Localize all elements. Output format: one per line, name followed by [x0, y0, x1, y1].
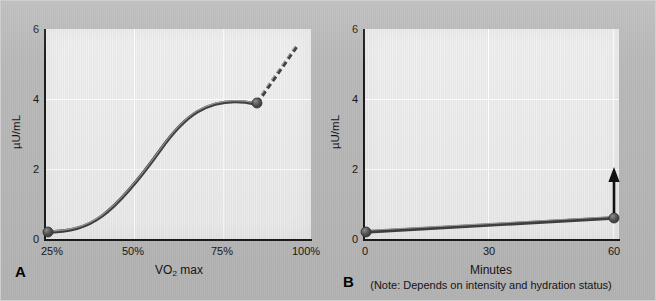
panel-b-curve-svg [329, 1, 656, 301]
panel-a: 0 2 4 6 25% 50% 75% 100% µU/mL VO2 max A [1, 1, 329, 301]
panel-a-curve-dashed-highlight [256, 45, 296, 102]
panel-b-curve-solid [365, 218, 614, 232]
panel-a-curve-solid [45, 102, 256, 232]
panel-a-marker-end [252, 98, 262, 108]
panel-b-marker-start [361, 227, 371, 237]
panel-a-curve-svg [1, 1, 329, 301]
panel-b: 0 2 4 6 0 30 60 µU/mL Minutes (Note: Dep… [329, 1, 656, 301]
panel-b-curve-solid-highlight [365, 217, 614, 231]
panel-b-marker-end [609, 213, 619, 223]
increase-arrow-icon [608, 167, 619, 213]
figure-container: 0 2 4 6 25% 50% 75% 100% µU/mL VO2 max A [0, 0, 656, 301]
panel-a-curve-dashed [257, 46, 297, 103]
panel-a-marker-start [43, 227, 53, 237]
